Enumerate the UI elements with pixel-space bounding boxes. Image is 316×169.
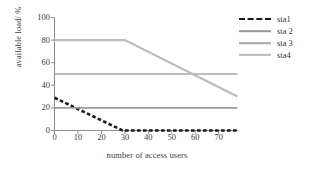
legend-swatch-icon (238, 50, 272, 60)
legend-label: sta4 (272, 50, 291, 60)
chart-legend: sta1sta 2sta 3sta4 (238, 13, 314, 61)
legend-label: sta 2 (272, 26, 293, 36)
series-line-sta4 (55, 40, 238, 97)
legend-item-sta4[interactable]: sta4 (238, 49, 314, 61)
legend-label: sta 3 (272, 38, 293, 48)
legend-item-sta1[interactable]: sta1 (238, 13, 314, 25)
legend-item-sta2[interactable]: sta 2 (238, 25, 314, 37)
legend-swatch-icon (238, 38, 272, 48)
chart-container: available load/ % number of access users… (0, 0, 316, 169)
legend-swatch-icon (238, 14, 272, 24)
legend-item-sta3[interactable]: sta 3 (238, 37, 314, 49)
legend-label: sta1 (272, 14, 291, 24)
legend-swatch-icon (238, 26, 272, 36)
series-line-sta1 (55, 98, 238, 131)
